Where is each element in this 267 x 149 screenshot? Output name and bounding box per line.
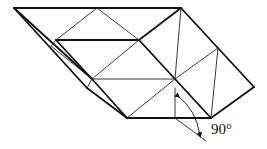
crease xyxy=(127,79,175,118)
crease xyxy=(56,8,97,40)
top-right-to-second xyxy=(139,8,181,40)
origami-diagram: 90° xyxy=(0,0,267,149)
crease xyxy=(97,8,139,40)
crease xyxy=(211,48,218,118)
crease xyxy=(175,8,181,79)
outer-edges xyxy=(14,8,254,118)
crease xyxy=(175,48,218,79)
right-upper-edge xyxy=(181,8,254,87)
crease xyxy=(87,79,92,88)
right-lower-edge xyxy=(211,87,254,118)
left-edge-inner-lower xyxy=(92,79,127,118)
left-edge-outer xyxy=(14,8,87,88)
rotation-annotation: 90° xyxy=(175,88,232,141)
left-edge-lower xyxy=(87,88,127,118)
reference-diagonal-line xyxy=(175,118,206,141)
crease xyxy=(51,46,92,79)
angle-label: 90° xyxy=(211,121,232,137)
crease xyxy=(92,40,139,79)
